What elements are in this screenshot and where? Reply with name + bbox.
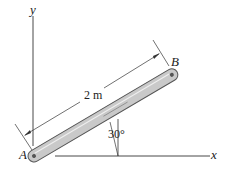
rod-ab <box>26 67 180 165</box>
x-axis-label: x <box>211 148 217 161</box>
dimension-arrow-a <box>24 130 31 136</box>
point-a-label: A <box>19 148 27 161</box>
point-b-label: B <box>171 55 179 68</box>
dimension-arrow-b <box>153 53 160 59</box>
diagram: y x A B 2 m 30° <box>0 0 230 171</box>
angle-label: 30° <box>108 128 125 140</box>
dimension-extension-b <box>153 40 169 66</box>
length-label: 2 m <box>84 89 102 101</box>
y-axis-label: y <box>30 3 36 16</box>
diagram-graphics <box>0 0 230 171</box>
